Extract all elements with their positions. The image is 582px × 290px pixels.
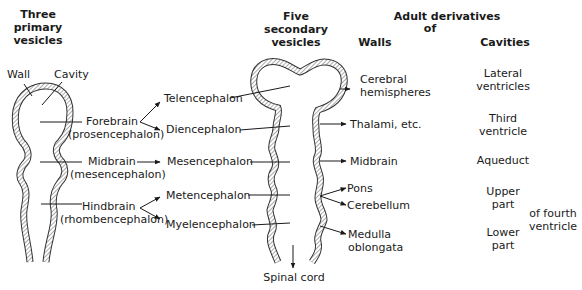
header-primary: primary: [14, 21, 63, 34]
lower-part-label: part: [492, 239, 515, 252]
cavity-label: Cavity: [54, 68, 89, 81]
mesencephalon-label: (mesencephalon): [70, 168, 166, 181]
mesencephalon-secondary-label: Mesencephalon: [167, 155, 253, 168]
hindbrain-label: Hindbrain: [82, 200, 136, 213]
header-three: Three: [20, 8, 56, 21]
primary-vesicle-shape: [15, 86, 70, 262]
forebrain-label: Forebrain: [86, 115, 138, 128]
header-vesicles-2: vesicles: [271, 36, 320, 49]
of-fourth-label: of fourth: [529, 207, 576, 220]
thalami-label: Thalami, etc.: [350, 118, 422, 131]
prosencephalon-label: (prosencephalon): [68, 128, 164, 141]
upper-label: Upper: [486, 185, 519, 198]
telencephalon-label: Telencephalon: [164, 92, 243, 105]
header-walls: Walls: [358, 36, 391, 49]
header-secondary: secondary: [264, 23, 328, 36]
rhombencephalon-label: (rhombencephalon): [60, 213, 168, 226]
lateral-label: Lateral: [484, 67, 522, 80]
lower-label: Lower: [487, 226, 520, 239]
oblongata-label: oblongata: [348, 241, 403, 254]
cerebellum-label: Cerebellum: [347, 199, 410, 212]
pons-label: Pons: [347, 182, 373, 195]
ventricle-label-2: ventricle: [529, 220, 577, 233]
header-vesicles-1: vesicles: [13, 34, 62, 47]
upper-part-label: part: [492, 198, 515, 211]
aqueduct-label: Aqueduct: [477, 154, 529, 167]
cerebral-label: Cerebral: [360, 73, 407, 86]
spinal-cord-label: Spinal cord: [263, 271, 324, 284]
myelencephalon-label: Myelencephalon: [166, 218, 256, 231]
wall-label: Wall: [7, 68, 30, 81]
third-label: Third: [489, 112, 517, 125]
ventricle-label-1: ventricle: [479, 125, 527, 138]
diencephalon-label: Diencephalon: [166, 123, 242, 136]
medulla-label: Medulla: [348, 228, 391, 241]
midbrain-label: Midbrain: [88, 155, 136, 168]
midbrain-wall-label: Midbrain: [350, 155, 398, 168]
header-five: Five: [283, 10, 309, 23]
header-adult-derivatives: Adult derivatives: [394, 10, 500, 23]
header-of: of: [424, 22, 436, 35]
header-cavities: Cavities: [480, 36, 529, 49]
hemispheres-label: hemispheres: [360, 86, 431, 99]
ventricles-label: ventricles: [476, 80, 530, 93]
metencephalon-label: Metencephalon: [166, 189, 251, 202]
